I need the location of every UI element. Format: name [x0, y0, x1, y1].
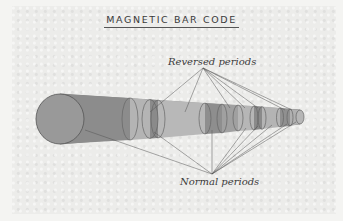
normal-periods-label: Normal periods — [180, 176, 259, 187]
reversed-periods-label: Reversed periods — [168, 56, 256, 67]
band-reversed-1 — [130, 98, 150, 140]
cylinder-front-face — [36, 94, 84, 144]
band-normal-3 — [205, 103, 222, 134]
diagram-canvas: MAGNETIC BAR CODE — [0, 0, 343, 221]
magnetic-bar-code-illustration — [0, 0, 343, 221]
cylinder-end-cap — [296, 110, 304, 124]
band-reversed-3 — [222, 104, 238, 133]
